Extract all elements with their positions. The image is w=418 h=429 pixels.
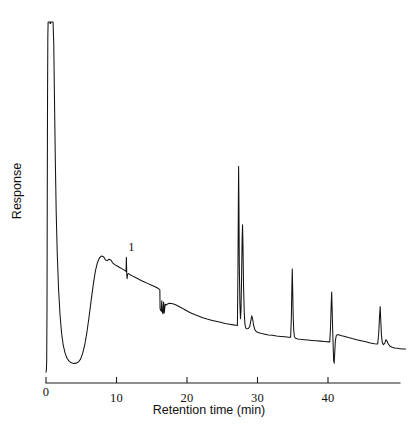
axis-group (46, 377, 400, 383)
x-axis-tick-label: 0 (34, 385, 58, 400)
trace-group (46, 22, 406, 372)
chromatogram-figure: 010203040 Retention time (min) Response … (0, 0, 418, 429)
y-axis-label: Response (10, 162, 24, 218)
y-axis-label-wrapper: Response (6, 0, 28, 429)
chromatogram-trace (46, 22, 406, 372)
peak-label-1: 1 (128, 240, 134, 255)
x-axis-label: Retention time (min) (0, 403, 418, 417)
x-axis-ticks (46, 377, 328, 383)
chromatogram-plot (0, 0, 418, 429)
